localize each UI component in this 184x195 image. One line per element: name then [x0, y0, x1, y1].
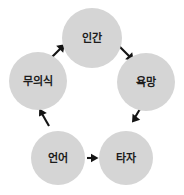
cycle-diagram: 인간 욕망 타자 언어 무의식 — [0, 0, 184, 195]
node-other[interactable]: 타자 — [99, 131, 153, 185]
arrow-language-to-unconscious — [39, 109, 49, 126]
node-language-label: 언어 — [48, 153, 68, 164]
node-desire[interactable]: 욕망 — [117, 53, 175, 111]
node-human-label: 인간 — [82, 33, 102, 44]
node-language[interactable]: 언어 — [31, 131, 85, 185]
node-other-label: 타자 — [116, 153, 136, 164]
node-unconscious[interactable]: 무의식 — [9, 52, 67, 110]
node-human[interactable]: 인간 — [62, 8, 122, 68]
node-unconscious-label: 무의식 — [23, 76, 53, 87]
arrow-language-to-other — [87, 154, 99, 163]
node-desire-label: 욕망 — [136, 77, 156, 88]
